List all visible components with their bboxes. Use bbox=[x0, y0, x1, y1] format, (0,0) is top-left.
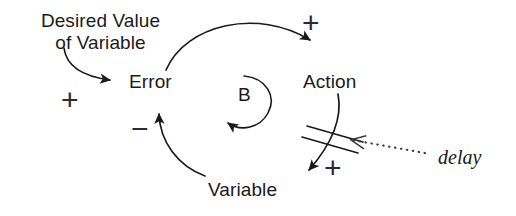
polarity-desired-to-error: + bbox=[61, 85, 79, 115]
polarity-error-to-action: + bbox=[302, 8, 320, 38]
delay-annotation-label: delay bbox=[438, 146, 481, 169]
loop-identifier-b: B bbox=[238, 84, 251, 106]
polarity-action-to-variable: + bbox=[324, 153, 342, 183]
polarity-variable-to-error: − bbox=[131, 114, 149, 144]
causal-loop-diagram: Desired Value of Variable Error Action V… bbox=[0, 0, 516, 216]
desired-value-line-1: Desired Value bbox=[41, 10, 160, 31]
node-label-error: Error bbox=[129, 71, 172, 93]
link-variable-to-error bbox=[159, 114, 205, 176]
link-error-to-action bbox=[166, 23, 310, 70]
desired-value-line-2: of Variable bbox=[55, 32, 146, 53]
node-label-desired-value: Desired Value of Variable bbox=[33, 10, 168, 54]
node-label-action: Action bbox=[303, 71, 356, 93]
node-label-variable: Variable bbox=[208, 179, 277, 201]
